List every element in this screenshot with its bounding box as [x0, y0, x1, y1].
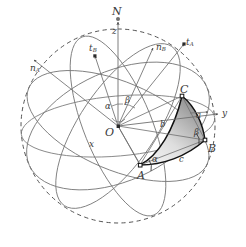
- point-A-marker: [138, 163, 142, 167]
- sphere-diagram-svg: [0, 0, 246, 247]
- vector-tB-line: [95, 56, 118, 126]
- vectors-group: [34, 44, 184, 126]
- north-pole-point: [116, 17, 120, 21]
- point-O-marker: [117, 125, 120, 128]
- point-B-marker: [203, 138, 207, 142]
- vector-nB-line: [118, 48, 153, 126]
- radius-OC: [118, 96, 182, 126]
- spherical-triangle-figure: N z x y O A B C nA tB nB tA b a c α β α …: [0, 0, 246, 247]
- angle-arc-alpha-center: [112, 104, 123, 106]
- vector-tA-line: [118, 44, 184, 126]
- angle-arc-beta-center: [124, 104, 135, 108]
- point-tA-marker: [182, 42, 185, 45]
- point-C-marker: [180, 94, 184, 98]
- point-tB-marker: [93, 54, 96, 57]
- vector-nA-line: [34, 60, 118, 126]
- axis-x-line: [118, 126, 141, 166]
